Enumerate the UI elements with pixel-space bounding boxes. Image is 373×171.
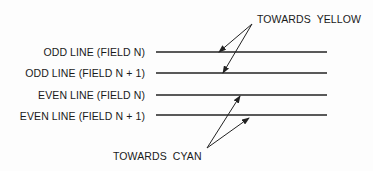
row-label-odd-field-n1: ODD LINE (FIELD N + 1) bbox=[0, 68, 145, 79]
row-label-even-field-n1: EVEN LINE (FIELD N + 1) bbox=[0, 111, 145, 122]
yellow-arrow-2 bbox=[223, 24, 252, 73]
row-label-even-field-n: EVEN LINE (FIELD N) bbox=[0, 90, 145, 101]
cyan-arrow-1 bbox=[207, 96, 240, 148]
towards-yellow-label: TOWARDS YELLOW bbox=[257, 14, 361, 25]
towards-cyan-label: TOWARDS CYAN bbox=[113, 151, 202, 162]
cyan-arrow-2 bbox=[207, 118, 249, 148]
interlace-diagram: ODD LINE (FIELD N) ODD LINE (FIELD N + 1… bbox=[0, 0, 373, 171]
row-label-odd-field-n: ODD LINE (FIELD N) bbox=[0, 47, 145, 58]
diagram-graphics bbox=[0, 0, 373, 171]
yellow-arrow-1 bbox=[219, 24, 252, 52]
